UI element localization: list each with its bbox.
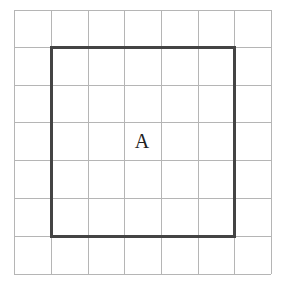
grid-diagram: A bbox=[0, 0, 281, 283]
shape-label-a: A bbox=[135, 131, 149, 151]
